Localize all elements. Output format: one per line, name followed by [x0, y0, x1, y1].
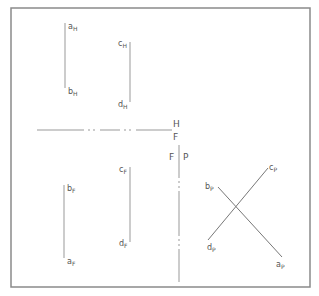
label-b-f: bF	[67, 184, 76, 194]
label-a-f: aF	[67, 257, 76, 267]
label-c-p: cP	[269, 163, 277, 173]
hf-label-f: F	[173, 132, 178, 142]
label-c-h: cH	[118, 39, 127, 49]
label-c-f: cF	[119, 165, 127, 175]
profile-view-line-dc	[208, 168, 268, 240]
drawing-frame	[11, 8, 310, 287]
orthographic-projection-diagram: H F F P aH bH cH dH bF aF cF dF bP aP dP…	[0, 0, 319, 296]
label-d-f: dF	[119, 239, 128, 249]
label-a-h: aH	[68, 22, 77, 32]
label-d-p: dP	[207, 243, 216, 253]
profile-view-line-ba	[218, 187, 282, 257]
fp-label-p: P	[183, 152, 189, 162]
label-d-h: dH	[118, 100, 128, 110]
hf-label-h: H	[173, 119, 180, 129]
label-a-p: aP	[276, 260, 285, 270]
label-b-h: bH	[68, 87, 78, 97]
label-b-p: bP	[205, 182, 214, 192]
fp-label-f: F	[169, 152, 174, 162]
